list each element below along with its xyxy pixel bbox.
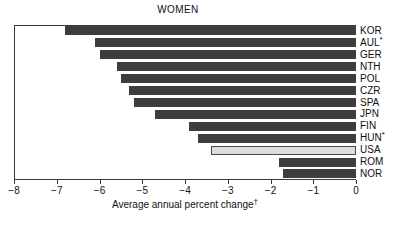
bar-row bbox=[14, 168, 356, 180]
category-label-czr: CZR bbox=[360, 85, 400, 97]
x-tick-mark bbox=[14, 180, 15, 184]
bar-row bbox=[14, 25, 356, 37]
x-tick-label: −3 bbox=[222, 185, 233, 196]
bar-kor[interactable] bbox=[65, 26, 356, 35]
bar-row bbox=[14, 132, 356, 144]
bar-row bbox=[14, 73, 356, 85]
bar-ger[interactable] bbox=[100, 50, 357, 59]
bar-row bbox=[14, 37, 356, 49]
category-label-nth: NTH bbox=[360, 61, 400, 73]
x-tick-label: −6 bbox=[94, 185, 105, 196]
x-tick-label: 0 bbox=[353, 185, 359, 196]
bar-hun[interactable] bbox=[198, 134, 356, 143]
bar-row bbox=[14, 156, 356, 168]
bar-row bbox=[14, 61, 356, 73]
footnote-asterisk: * bbox=[382, 130, 385, 139]
category-label-spa: SPA bbox=[360, 97, 400, 109]
category-label-hun: HUN* bbox=[360, 132, 400, 144]
bar-row bbox=[14, 108, 356, 120]
x-tick-mark bbox=[100, 180, 101, 184]
x-tick-mark bbox=[185, 180, 186, 184]
chart-figure: WOMEN KORAUL*GERNTHPOLCZRSPAJPNFINHUN*US… bbox=[0, 0, 400, 226]
x-tick-label: −4 bbox=[179, 185, 190, 196]
bar-row bbox=[14, 120, 356, 132]
x-tick-label: −8 bbox=[8, 185, 19, 196]
bar-rom[interactable] bbox=[279, 158, 356, 167]
category-label-jpn: JPN bbox=[360, 108, 400, 120]
x-tick-label: −1 bbox=[308, 185, 319, 196]
category-label-fin: FIN bbox=[360, 120, 400, 132]
bar-row bbox=[14, 85, 356, 97]
category-label-usa: USA bbox=[360, 144, 400, 156]
category-label-nor: NOR bbox=[360, 168, 400, 180]
bar-fin[interactable] bbox=[189, 122, 356, 131]
x-tick-mark bbox=[313, 180, 314, 184]
bar-spa[interactable] bbox=[134, 98, 356, 107]
x-tick-mark bbox=[142, 180, 143, 184]
x-tick-mark bbox=[271, 180, 272, 184]
bar-jpn[interactable] bbox=[155, 110, 356, 119]
category-label-rom: ROM bbox=[360, 156, 400, 168]
x-tick-label: −7 bbox=[51, 185, 62, 196]
chart-title: WOMEN bbox=[0, 4, 356, 15]
footnote-dagger: † bbox=[254, 197, 258, 206]
category-label-pol: POL bbox=[360, 73, 400, 85]
bar-nth[interactable] bbox=[117, 62, 356, 71]
bar-aul[interactable] bbox=[95, 38, 356, 47]
bar-pol[interactable] bbox=[121, 74, 356, 83]
x-tick-label: −2 bbox=[265, 185, 276, 196]
bar-usa[interactable] bbox=[211, 146, 356, 155]
bar-czr[interactable] bbox=[129, 86, 356, 95]
footnote-asterisk: * bbox=[379, 35, 382, 44]
bar-nor[interactable] bbox=[283, 169, 356, 178]
category-label-aul: AUL* bbox=[360, 37, 400, 49]
x-tick-mark bbox=[57, 180, 58, 184]
bars-layer bbox=[14, 25, 356, 180]
bar-row bbox=[14, 144, 356, 156]
category-labels: KORAUL*GERNTHPOLCZRSPAJPNFINHUN*USAROMNO… bbox=[360, 25, 400, 180]
x-tick-mark bbox=[356, 180, 357, 184]
x-axis-title: Average annual percent change† bbox=[14, 199, 356, 210]
bar-row bbox=[14, 97, 356, 109]
category-label-ger: GER bbox=[360, 49, 400, 61]
x-tick-label: −5 bbox=[137, 185, 148, 196]
x-tick-mark bbox=[228, 180, 229, 184]
bar-row bbox=[14, 49, 356, 61]
